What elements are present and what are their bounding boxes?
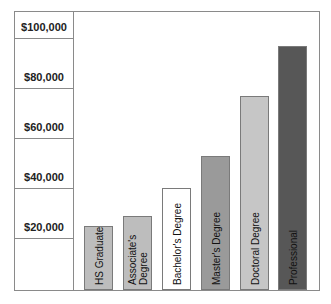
bar-hs-graduate: HS Graduate	[84, 226, 113, 291]
bar-associate-s-degree: Associate'sDegree	[123, 216, 152, 291]
bar-label: Bachelor's Degree	[171, 203, 182, 285]
bar-professional: Professional	[278, 46, 307, 291]
y-tick-line	[14, 38, 74, 39]
y-tick-label: $40,000	[14, 171, 74, 183]
bar-label: Doctoral Degree	[249, 212, 260, 285]
y-tick-line	[14, 138, 74, 139]
y-tick-line	[14, 88, 74, 89]
y-tick-label: $60,000	[14, 121, 74, 133]
bar-doctoral-degree: Doctoral Degree	[240, 96, 269, 291]
bar-label: Associate'sDegree	[127, 235, 149, 285]
y-tick-label: $80,000	[14, 71, 74, 83]
bar-label: Master's Degree	[210, 212, 221, 285]
y-tick-label: $20,000	[14, 221, 74, 233]
bar-bachelor-s-degree: Bachelor's Degree	[162, 188, 191, 290]
bar-master-s-degree: Master's Degree	[201, 156, 230, 291]
y-tick-label: $100,000	[14, 21, 74, 33]
bar-label: HS Graduate	[93, 227, 104, 285]
y-tick-line	[14, 188, 74, 189]
y-axis-label-column	[14, 11, 74, 291]
x-axis-baseline	[14, 290, 320, 291]
y-tick-line	[14, 238, 74, 239]
bar-label: Professional	[287, 230, 298, 285]
